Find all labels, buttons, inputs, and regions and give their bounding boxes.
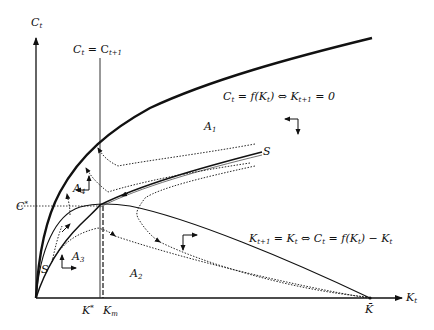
- kl-p4: = f(K: [325, 232, 358, 245]
- cl-p2: = C: [84, 43, 109, 56]
- a2-base: A: [130, 267, 138, 280]
- k-bar-point: [368, 296, 371, 299]
- a2-sub: 2: [138, 273, 142, 281]
- trajectory-lower-1: [137, 166, 255, 242]
- saddle-arrow-lower: [62, 224, 70, 232]
- y-axis-label: Ct: [31, 17, 42, 30]
- a3-base: A: [72, 250, 80, 263]
- kl-p1-sub: t+1: [257, 238, 270, 246]
- trajectory-upper-2: [86, 163, 250, 192]
- kl-p5-sub: t: [389, 238, 392, 246]
- a4-sub: 4: [81, 188, 85, 196]
- a4-base: A: [73, 182, 81, 195]
- phase-diagram: Ct Kt Ct = Ct+1 Ct = f(Kt) ⇔ Kt+1 = 0 Kt…: [0, 0, 434, 330]
- pc-tail: ) ⇔ K: [270, 90, 299, 103]
- x-axis-label-base: K: [406, 291, 414, 304]
- a1-sub: 1: [212, 126, 216, 134]
- kl-p3: ⇔ C: [298, 232, 323, 245]
- k-m-label: Km: [103, 305, 118, 318]
- saddle-path-label: S: [263, 146, 271, 157]
- cl-p2-sub: t+1: [109, 49, 122, 57]
- region-a3-label: A3: [72, 251, 84, 264]
- y-axis-label-sub: t: [39, 22, 42, 30]
- k-bar-label: K̄: [365, 304, 373, 315]
- pc-rest: = f(K: [234, 90, 267, 103]
- saddle-path-start-label: S: [41, 264, 49, 275]
- capital-locus-label: Kt+1 = Kt ⇔ Ct = f(Kt) − Kt: [249, 233, 392, 246]
- phase-diagram-canvas: [0, 0, 434, 330]
- direction-arrows-a2: [183, 235, 197, 250]
- consumption-locus-label: Ct = Ct+1: [73, 44, 122, 57]
- direction-arrows-a1: [285, 119, 298, 134]
- pc-end: = 0: [312, 90, 335, 103]
- k-star-sup: *: [90, 304, 94, 312]
- c-star-sup: *: [24, 200, 28, 208]
- kl-p1: K: [249, 232, 257, 245]
- k-star-label: K*: [82, 305, 94, 316]
- c-star-label: C*: [16, 201, 28, 212]
- kl-p2: = K: [270, 232, 294, 245]
- region-a4-label: A4: [73, 183, 85, 196]
- pc-tail-sub: t+1: [299, 96, 312, 104]
- saddle-path-parallel: [100, 155, 262, 207]
- a1-base: A: [204, 120, 212, 133]
- k-m-sub: m: [111, 310, 118, 318]
- x-axis-label: Kt: [406, 292, 417, 305]
- trajectory-lower-4: [160, 242, 368, 297]
- region-a2-label: A2: [130, 268, 142, 281]
- k-star-base: K: [82, 304, 90, 317]
- region-a1-label: A1: [204, 121, 216, 134]
- x-axis-label-sub: t: [414, 297, 417, 305]
- k-m-base: K: [103, 304, 111, 317]
- kl-p5: ) − K: [361, 232, 390, 245]
- production-curve-label: Ct = f(Kt) ⇔ Kt+1 = 0: [223, 91, 335, 104]
- a3-sub: 3: [80, 256, 84, 264]
